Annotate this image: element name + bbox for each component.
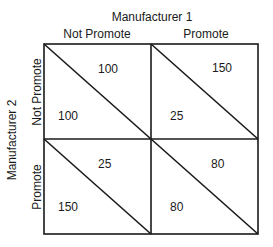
- payoff-np-lower: 25: [170, 109, 183, 123]
- cell-diagonal: [44, 139, 151, 234]
- cell-diagonal: [151, 139, 258, 234]
- payoff-np-upper: 150: [212, 61, 232, 75]
- payoff-pn-lower: 150: [58, 200, 78, 214]
- payoff-pp-lower: 80: [170, 200, 183, 214]
- cell-diagonal: [44, 44, 151, 139]
- payoff-pn-upper: 25: [98, 157, 111, 171]
- payoff-pp-upper: 80: [211, 157, 224, 171]
- payoff-nn-lower: 100: [58, 109, 78, 123]
- payoff-grid: [0, 0, 273, 247]
- payoff-nn-upper: 100: [98, 62, 118, 76]
- cell-diagonal: [151, 44, 258, 139]
